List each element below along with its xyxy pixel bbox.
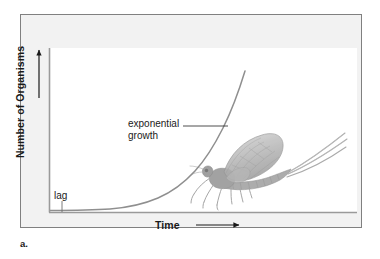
exponential-growth-label-line1: exponential	[128, 118, 179, 129]
x-axis-title: Time	[155, 219, 180, 231]
exponential-growth-annotation: exponential growth	[128, 118, 179, 141]
y-axis-title: Number of Organisms	[14, 22, 26, 182]
figure-exponential-growth: Number of Organisms Time lag exponential…	[0, 0, 380, 259]
figure-caption: a.	[20, 238, 28, 249]
plot-area	[49, 48, 357, 213]
lag-annotation-label: lag	[54, 190, 67, 201]
exponential-growth-label-line2: growth	[128, 130, 179, 142]
